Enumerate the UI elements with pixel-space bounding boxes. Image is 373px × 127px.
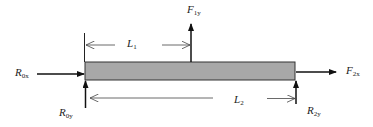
label-l2: L2 [234,93,244,107]
label-f2x-main: F [346,64,353,76]
label-f1y-main: F [187,3,194,15]
label-r0x-main: R [15,66,22,78]
label-f1y-sub: 1y [194,9,201,17]
label-f2x: F2x [346,64,360,78]
label-l1-sub: 1 [133,43,137,51]
label-r0x: R0x [15,66,29,80]
beam [85,62,295,80]
label-f2x-sub: 2x [353,70,360,78]
label-r0y: R0y [59,106,73,120]
label-r0y-sub: 0y [66,112,73,120]
label-r0y-main: R [59,106,66,118]
label-r2y: R2y [307,104,321,118]
label-r2y-sub: 2y [314,110,321,118]
label-f1y: F1y [187,3,201,17]
label-r2y-main: R [307,104,314,116]
label-l1: L1 [127,37,137,51]
label-r0x-sub: 0x [22,72,29,80]
label-l2-sub: 2 [240,99,244,107]
